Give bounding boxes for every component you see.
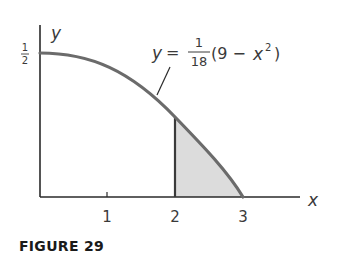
y-axis-label: y <box>50 23 62 43</box>
x-axis-label: x <box>307 190 319 210</box>
equation-rhs-close: ) <box>274 44 280 63</box>
x-tick-label-2: 2 <box>170 208 180 226</box>
label-leader-line <box>157 67 170 95</box>
x-tick-label-1: 1 <box>102 208 112 226</box>
equation-rhs-var: x <box>252 44 264 64</box>
equation-lhs: y <box>151 43 163 63</box>
equation-frac-num: 1 <box>195 35 203 50</box>
equation-frac-den: 18 <box>191 54 208 69</box>
y-tick-den: 2 <box>22 55 28 66</box>
equation-label: y = 1 18 (9 − x 2 ) <box>151 35 280 69</box>
equation-rhs-exp: 2 <box>265 42 271 53</box>
figure-caption: FIGURE 29 <box>19 238 104 254</box>
y-tick-num: 1 <box>22 42 28 53</box>
equation-rhs-open: (9 − <box>211 44 246 63</box>
equation-equals: = <box>166 43 179 62</box>
x-tick-label-3: 3 <box>238 208 248 226</box>
figure-graph: y x 1 2 1 2 3 y = 1 18 (9 − x 2 ) <box>0 0 342 266</box>
